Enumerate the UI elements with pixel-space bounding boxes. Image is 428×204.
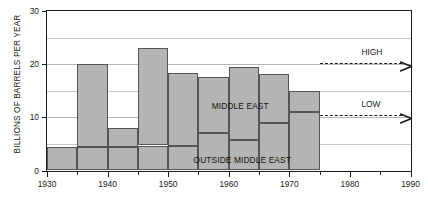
series-label-outside-middle-east: OUTSIDE MIDDLE EAST (194, 155, 291, 165)
projection-label-high: HIGH (361, 47, 382, 57)
x-tick-1930 (47, 171, 48, 177)
bar-segment-middle-east (138, 48, 168, 145)
bar-segment-outside-middle-east (108, 147, 138, 171)
table-row (168, 11, 198, 171)
x-tick-minor-1985 (380, 171, 381, 175)
x-tick-label-1970: 1970 (280, 179, 299, 189)
plot-area: 01020301930194019501960197019801990MIDDL… (46, 10, 412, 172)
y-tick-label-10: 10 (30, 112, 39, 122)
x-tick-1940 (108, 171, 109, 177)
table-row (108, 11, 138, 171)
table-row (47, 11, 77, 171)
arrowhead-icon (400, 58, 411, 69)
x-tick-minor-1955 (198, 171, 199, 175)
bar-segment-outside-middle-east (289, 112, 319, 170)
bar-segment-middle-east (168, 73, 198, 145)
x-tick-1960 (229, 171, 230, 177)
x-tick-label-1940: 1940 (98, 179, 117, 189)
x-tick-1970 (289, 171, 290, 177)
table-row (229, 11, 259, 171)
x-tick-label-1950: 1950 (159, 179, 178, 189)
x-tick-label-1990: 1990 (401, 179, 420, 189)
projection-label-low: LOW (361, 99, 380, 109)
projection-arrow-high: HIGH (320, 58, 411, 69)
table-row (138, 11, 168, 171)
bar-segment-outside-middle-east (138, 146, 168, 171)
series-label-middle-east: MIDDLE EAST (212, 101, 269, 111)
x-tick-minor-1945 (138, 171, 139, 175)
bar-segment-middle-east (289, 91, 319, 112)
x-tick-1990 (411, 171, 412, 177)
table-row (259, 11, 289, 171)
y-tick-label-20: 20 (30, 59, 39, 69)
arrowhead-icon (400, 110, 411, 121)
bar-segment-outside-middle-east (77, 147, 107, 171)
y-tick-label-30: 30 (30, 6, 39, 16)
y-axis-title: BILLIONS OF BARRELS PER YEAR (13, 0, 25, 172)
x-tick-label-1930: 1930 (38, 179, 57, 189)
x-tick-minor-1965 (259, 171, 260, 175)
bar-segment-middle-east (77, 64, 107, 146)
table-row (289, 11, 319, 171)
x-tick-minor-1975 (320, 171, 321, 175)
x-tick-minor-1935 (77, 171, 78, 175)
bar-segment-outside-middle-east (47, 147, 77, 171)
x-tick-label-1980: 1980 (341, 179, 360, 189)
x-tick-label-1960: 1960 (219, 179, 238, 189)
table-row (198, 11, 228, 171)
bar-segment-middle-east (259, 74, 289, 123)
y-tick-label-0: 0 (34, 166, 39, 176)
oil-production-chart: BILLIONS OF BARRELS PER YEAR 01020301930… (0, 0, 428, 204)
dashed-line (320, 63, 402, 64)
x-tick-1980 (350, 171, 351, 177)
projection-arrow-low: LOW (320, 110, 411, 121)
dashed-line (320, 115, 402, 116)
x-tick-1950 (168, 171, 169, 177)
plot-inner: 01020301930194019501960197019801990MIDDL… (47, 11, 411, 171)
bar-segment-middle-east (108, 128, 138, 147)
table-row (77, 11, 107, 171)
